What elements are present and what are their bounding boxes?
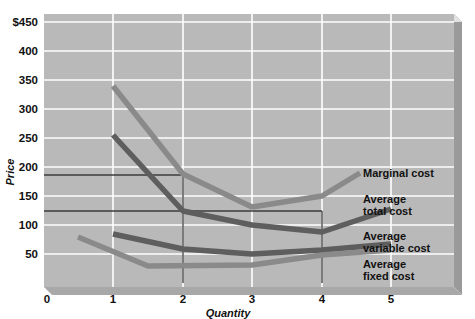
marginal-cost-label: Marginal cost [363, 167, 434, 179]
y-tick-0: 0 [44, 293, 50, 305]
y-tick-400: 400 [19, 45, 38, 57]
average-total-cost-label-line2: total cost [363, 205, 412, 217]
y-tick-450: $450 [12, 16, 38, 28]
average-total-cost-label-line1: Average [363, 193, 406, 205]
y-tick-150: 150 [19, 190, 38, 202]
y-tick-250: 250 [19, 132, 38, 144]
x-tick-4: 4 [319, 293, 326, 305]
average-variable-cost-label-line2: variable cost [363, 242, 431, 254]
x-tick-1: 1 [110, 293, 117, 305]
y-tick-300: 300 [19, 103, 38, 115]
y-tick-350: 350 [19, 74, 38, 86]
y-axis-title: Price [4, 159, 16, 186]
average-variable-cost-label-line1: Average [363, 230, 406, 242]
x-tick-2: 2 [180, 293, 186, 305]
plot-bevel-right [454, 14, 462, 295]
y-tick-100: 100 [19, 219, 38, 231]
x-tick-5: 5 [388, 293, 395, 305]
y-tick-200: 200 [19, 161, 38, 173]
average-fixed-cost-label-line2: fixed cost [363, 270, 415, 282]
cost-curves-chart: $450 400 350 300 250 200 150 100 50 0 Pr… [0, 0, 475, 319]
average-fixed-cost-label-line1: Average [363, 258, 406, 270]
chart-canvas: $450 400 350 300 250 200 150 100 50 0 Pr… [0, 0, 475, 319]
x-tick-3: 3 [249, 293, 255, 305]
y-tick-50: 50 [25, 248, 38, 260]
x-axis-title: Quantity [206, 307, 251, 319]
